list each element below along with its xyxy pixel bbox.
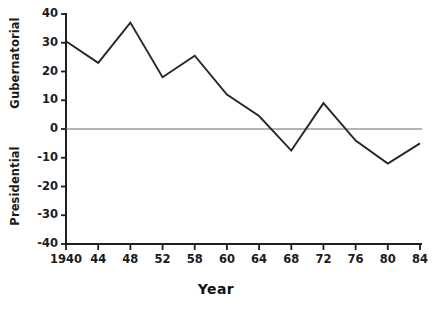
data-series-line <box>66 23 420 164</box>
chart-figure: Gubernatorial Presidential 403020100-10-… <box>0 0 432 309</box>
x-axis-title: Year <box>0 281 432 297</box>
tick-marks <box>61 14 420 250</box>
plot-area <box>0 0 432 309</box>
